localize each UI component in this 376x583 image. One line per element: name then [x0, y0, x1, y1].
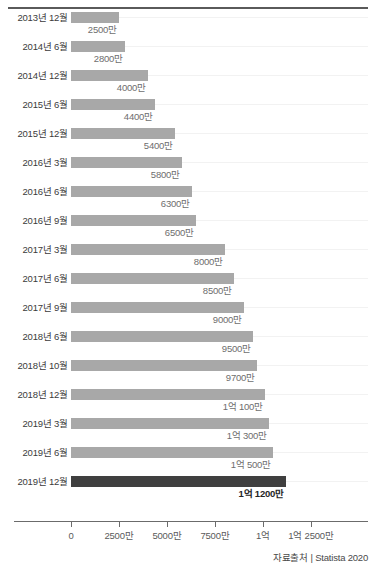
axis-tick-label: 7500만 — [200, 530, 229, 542]
bar-row: 2016년 9월6500만 — [0, 215, 376, 244]
bar — [71, 157, 182, 168]
bar-row: 2013년 12월2500만 — [0, 12, 376, 41]
category-label: 2019년 12월 — [0, 476, 68, 488]
bar-row: 2014년 12월4000만 — [0, 70, 376, 99]
bar-row: 2015년 12월5400만 — [0, 128, 376, 157]
axis-tick-label: 5000만 — [152, 530, 181, 542]
value-label: 2800만 — [94, 53, 123, 65]
plot-area: 2013년 12월2500만2014년 6월2800만2014년 12월4000… — [0, 12, 376, 512]
value-label: 1억 1200만 — [239, 488, 284, 500]
bar — [71, 302, 244, 313]
x-axis: 02500만5000만7500만1억1억 2500만 자료출처 | Statis… — [0, 521, 376, 583]
category-label: 2018년 10월 — [0, 360, 68, 372]
bar — [71, 99, 155, 110]
value-label: 4400만 — [124, 111, 153, 123]
value-label: 2500만 — [88, 24, 117, 36]
category-label: 2013년 12월 — [0, 12, 68, 24]
axis-tick-label: 1억 2500만 — [288, 530, 333, 542]
bar — [71, 186, 192, 197]
category-label: 2019년 6월 — [0, 447, 68, 459]
category-label: 2017년 9월 — [0, 302, 68, 314]
bar-row: 2019년 12월1억 1200만 — [0, 476, 376, 505]
bar — [71, 70, 148, 81]
value-label: 8000만 — [194, 256, 223, 268]
bar-row: 2019년 6월1억 500만 — [0, 447, 376, 476]
bar-chart: 2013년 12월2500만2014년 6월2800만2014년 12월4000… — [0, 0, 376, 583]
value-label: 1억 300만 — [227, 430, 267, 442]
axis-tick — [311, 521, 312, 527]
value-label: 9500만 — [222, 343, 251, 355]
bar — [71, 331, 253, 342]
bar-row: 2015년 6월4400만 — [0, 99, 376, 128]
axis-tick-label: 1억 — [256, 530, 270, 542]
axis-tick — [71, 521, 72, 527]
category-label: 2019년 3월 — [0, 418, 68, 430]
value-label: 1억 500만 — [231, 459, 271, 471]
bar — [71, 418, 269, 429]
bar — [71, 41, 125, 52]
value-label: 8500만 — [203, 285, 232, 297]
bar — [71, 128, 175, 139]
x-axis-line — [14, 521, 368, 522]
bar — [71, 447, 273, 458]
bar-row: 2017년 6월8500만 — [0, 273, 376, 302]
axis-tick-label: 0 — [68, 530, 73, 542]
category-label: 2016년 3월 — [0, 157, 68, 169]
category-label: 2014년 6월 — [0, 41, 68, 53]
bar-row: 2016년 3월5800만 — [0, 157, 376, 186]
category-label: 2015년 12월 — [0, 128, 68, 140]
value-label: 1억 100만 — [223, 401, 263, 413]
axis-tick-label: 2500만 — [104, 530, 133, 542]
bar — [71, 389, 265, 400]
category-label: 2018년 6월 — [0, 331, 68, 343]
category-label: 2016년 6월 — [0, 186, 68, 198]
value-label: 6500만 — [165, 227, 194, 239]
category-label: 2018년 12월 — [0, 389, 68, 401]
bar — [71, 244, 225, 255]
bar-row: 2019년 3월1억 300만 — [0, 418, 376, 447]
bar-row: 2018년 12월1억 100만 — [0, 389, 376, 418]
bar-row: 2016년 6월6300만 — [0, 186, 376, 215]
axis-tick — [263, 521, 264, 527]
value-label: 9700만 — [226, 372, 255, 384]
axis-tick — [167, 521, 168, 527]
category-label: 2017년 3월 — [0, 244, 68, 256]
bar-row: 2017년 9월9000만 — [0, 302, 376, 331]
bar — [71, 273, 234, 284]
value-label: 6300만 — [161, 198, 190, 210]
bar-row: 2018년 6월9500만 — [0, 331, 376, 360]
category-label: 2014년 12월 — [0, 70, 68, 82]
category-label: 2015년 6월 — [0, 99, 68, 111]
bar — [71, 215, 196, 226]
value-label: 9000만 — [213, 314, 242, 326]
bar — [71, 360, 257, 371]
axis-tick — [215, 521, 216, 527]
value-label: 5800만 — [151, 169, 180, 181]
category-label: 2016년 9월 — [0, 215, 68, 227]
bar-row: 2017년 3월8000만 — [0, 244, 376, 273]
value-label: 5400만 — [144, 140, 173, 152]
bar-row: 2018년 10월9700만 — [0, 360, 376, 389]
category-label: 2017년 6월 — [0, 273, 68, 285]
bar — [71, 12, 119, 23]
source-attribution: 자료출처 | Statista 2020 — [273, 552, 368, 564]
header-divider — [8, 7, 368, 9]
value-label: 4000만 — [117, 82, 146, 94]
bar-highlighted — [71, 476, 286, 487]
axis-tick — [119, 521, 120, 527]
bar-row: 2014년 6월2800만 — [0, 41, 376, 70]
